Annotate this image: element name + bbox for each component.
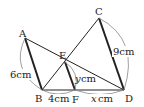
point-label-C: C (95, 6, 103, 17)
point-label-D: D (125, 93, 133, 104)
point-label-B: B (35, 93, 42, 104)
measure-FD-unit: cm (98, 93, 114, 104)
measure-CD: 9cm (113, 46, 135, 57)
measure-FD-var: x (91, 93, 97, 104)
point-label-E: E (59, 50, 66, 61)
measure-EF-unit: cm (81, 73, 97, 84)
measure-EF-var: y (74, 73, 81, 84)
measure-AB: 6cm (10, 69, 32, 80)
geometry-diagram: A B C D E F 6cm 9cm y cm 4cm x cm (0, 0, 144, 107)
point-label-A: A (18, 28, 27, 39)
measure-BF: 4cm (48, 93, 70, 104)
point-label-F: F (72, 94, 79, 105)
